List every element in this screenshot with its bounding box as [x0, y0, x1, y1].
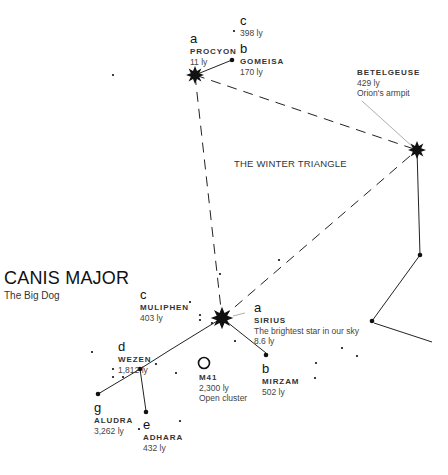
winter-triangle-label: THE WINTER TRIANGLE — [234, 158, 347, 169]
betelgeuse-pointer — [362, 101, 414, 148]
adhara-label: e ADHARA 432 ly — [143, 418, 183, 454]
gomeisa-label: b GOMEISA 170 ly — [240, 42, 284, 78]
aludra-label: g ALUDRA 3,262 ly — [94, 401, 133, 437]
aludra-star-icon[interactable] — [96, 392, 101, 397]
orion-lines — [372, 150, 432, 342]
constellation-subtitle: The Big Dog — [4, 290, 129, 301]
adhara-star-icon[interactable] — [144, 410, 149, 415]
procyon-c-label: c 398 ly — [240, 14, 263, 39]
sirius-label: a SIRIUS The brightest star in our sky 8… — [254, 301, 359, 347]
constellation-title: CANIS MAJOR The Big Dog — [4, 268, 129, 301]
open-cluster-icon[interactable] — [199, 358, 210, 369]
procyon-star-icon[interactable] — [186, 66, 204, 84]
muliphen-label: c MULIPHEN 403 ly — [140, 288, 189, 324]
constellation-name: CANIS MAJOR — [4, 268, 129, 289]
betelgeuse-label: BETELGEUSE 429 ly Orion's armpit — [357, 68, 420, 99]
orion-star-icon[interactable] — [370, 319, 375, 324]
mirzam-star-icon[interactable] — [264, 353, 269, 358]
procyon-label: a PROCYON 11 ly — [190, 32, 237, 68]
m41-label: M41 2,300 ly Open cluster — [199, 373, 247, 404]
sirius-star-icon[interactable] — [211, 307, 234, 330]
winter-triangle-lines — [195, 75, 417, 318]
orion-star-icon[interactable] — [418, 253, 423, 258]
wezen-label: d WEZEN 1,812 ly — [118, 340, 151, 376]
betelgeuse-star-icon[interactable] — [408, 141, 426, 159]
mirzam-label: b MIRZAM 502 ly — [262, 362, 299, 398]
